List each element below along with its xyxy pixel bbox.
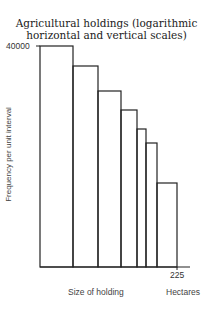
x-axis-label: Size of holding: [68, 287, 124, 297]
histogram-plot: [0, 0, 213, 314]
x-tick-label: 225: [170, 270, 184, 280]
histogram-bar: [137, 129, 146, 267]
histogram-bar: [146, 143, 157, 267]
histogram-bar: [121, 110, 137, 267]
histogram-bar: [98, 91, 121, 267]
x-axis-unit: Hectares: [166, 287, 200, 297]
histogram-bar: [73, 66, 98, 267]
histogram-bar: [40, 46, 73, 267]
histogram-bar: [157, 183, 177, 267]
